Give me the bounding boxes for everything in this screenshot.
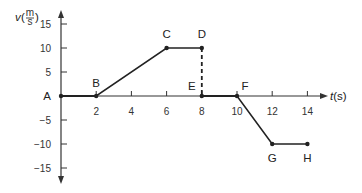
point-b xyxy=(94,94,98,98)
x-tick-label: 10 xyxy=(231,106,243,117)
y-tick-label: 5 xyxy=(45,67,51,78)
point-label-b: B xyxy=(92,77,100,89)
point-label-e: E xyxy=(188,80,196,92)
point-c xyxy=(164,46,168,50)
y-axis-label: v(ms) xyxy=(15,7,39,27)
x-axis-arrow-icon xyxy=(320,93,328,99)
y-label-denominator: s xyxy=(28,16,33,27)
y-tick-label: −10 xyxy=(34,139,51,150)
x-axis-label: t(s) xyxy=(330,90,347,102)
point-label-a: A xyxy=(43,90,51,102)
point-a xyxy=(59,94,63,98)
point-f xyxy=(235,94,239,98)
point-d xyxy=(200,46,204,50)
y-tick-label: 15 xyxy=(40,19,52,30)
velocity-time-chart: t(s)v(ms) 246810121415105−5−10−15 ABCDEF… xyxy=(0,0,362,193)
y-axis-arrow-up-icon xyxy=(58,10,64,18)
y-axis-arrow-down-icon xyxy=(58,176,64,184)
point-e xyxy=(200,94,204,98)
point-h xyxy=(305,142,309,146)
y-tick-label: 10 xyxy=(40,43,52,54)
point-g xyxy=(270,142,274,146)
point-label-f: F xyxy=(241,80,248,92)
x-tick-label: 12 xyxy=(267,106,279,117)
x-tick-label: 8 xyxy=(199,106,205,117)
series-a-b-c-d xyxy=(61,48,202,96)
x-tick-label: 4 xyxy=(129,106,135,117)
y-label-open-paren: ( xyxy=(21,11,25,23)
point-label-g: G xyxy=(268,152,277,164)
series-e-f-g-h xyxy=(202,96,308,144)
x-tick-label: 6 xyxy=(164,106,170,117)
x-tick-label: 2 xyxy=(93,106,99,117)
point-label-c: C xyxy=(162,28,170,40)
y-tick-label: −5 xyxy=(40,115,52,126)
point-label-h: H xyxy=(303,152,311,164)
x-tick-label: 14 xyxy=(302,106,314,117)
y-label-close-paren: ) xyxy=(35,11,39,23)
point-label-d: D xyxy=(198,28,206,40)
y-tick-label: −15 xyxy=(34,163,51,174)
